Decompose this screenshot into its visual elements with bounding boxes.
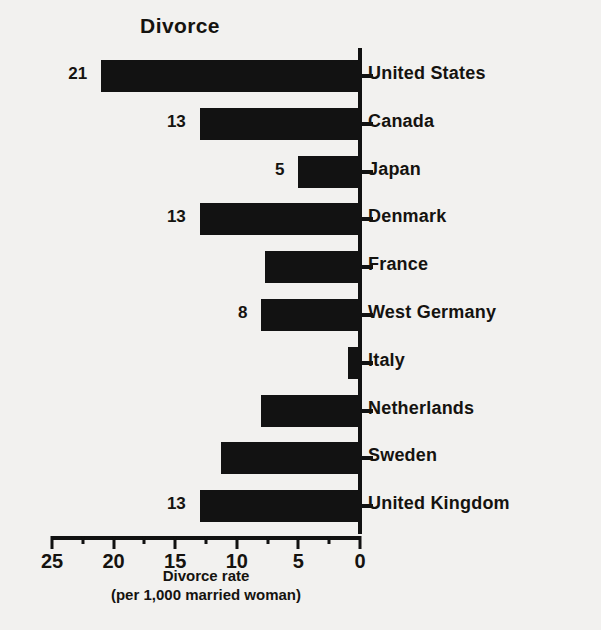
bar-row: 13Denmark (52, 195, 360, 243)
x-axis-caption: Divorce rate (per 1,000 married woman) (52, 566, 360, 604)
bar (101, 60, 360, 92)
x-tick-major (174, 536, 177, 549)
bar-value-label: 21 (68, 64, 87, 84)
x-tick-major (112, 536, 115, 549)
divorce-bar-chart: Divorce 21United States13Canada5Japan13D… (0, 0, 601, 630)
bar (200, 203, 360, 235)
x-tick-minor (143, 536, 146, 544)
bar (348, 347, 360, 379)
bar (221, 442, 360, 474)
bar-row: 5Japan (52, 148, 360, 196)
x-tick-major (235, 536, 238, 549)
bar (261, 299, 360, 331)
category-label: Japan (368, 159, 421, 180)
bar-value-label: 8 (238, 303, 247, 323)
category-label: Denmark (368, 206, 446, 227)
bar-row: Netherlands (52, 387, 360, 435)
category-label: West Germany (368, 302, 496, 323)
x-tick-major (297, 536, 300, 549)
x-axis-sublabel: (per 1,000 married woman) (52, 585, 360, 604)
bar-row: 8West Germany (52, 291, 360, 339)
x-tick-minor (81, 536, 84, 544)
chart-title: Divorce (0, 14, 360, 38)
bar-row: 13United Kingdom (52, 482, 360, 530)
plot-area: 21United States13Canada5Japan13DenmarkFr… (52, 52, 360, 530)
bar-rows: 21United States13Canada5Japan13DenmarkFr… (52, 52, 360, 530)
bar-value-label: 5 (275, 160, 284, 180)
category-label: Italy (368, 350, 405, 371)
category-label: Netherlands (368, 398, 474, 419)
x-tick-major (359, 536, 362, 549)
x-tick-major (51, 536, 54, 549)
x-tick-minor (328, 536, 331, 544)
bar-row: 21United States (52, 52, 360, 100)
bar (200, 108, 360, 140)
bar-value-label: 13 (167, 112, 186, 132)
category-label: Sweden (368, 445, 437, 466)
bar (298, 156, 360, 188)
bar (265, 251, 360, 283)
x-tick-minor (266, 536, 269, 544)
x-axis-label: Divorce rate (52, 566, 360, 585)
category-label: France (368, 254, 428, 275)
bar-row: Italy (52, 339, 360, 387)
bar-value-label: 13 (167, 494, 186, 514)
bar-value-label: 13 (167, 207, 186, 227)
x-axis: 2520151050 (52, 536, 360, 537)
category-label: United States (368, 63, 486, 84)
bar-row: France (52, 243, 360, 291)
bar-row: Sweden (52, 434, 360, 482)
category-label: United Kingdom (368, 493, 510, 514)
bar (200, 490, 360, 522)
bar-row: 13Canada (52, 100, 360, 148)
bar (261, 395, 360, 427)
x-tick-minor (205, 536, 208, 544)
category-label: Canada (368, 111, 434, 132)
